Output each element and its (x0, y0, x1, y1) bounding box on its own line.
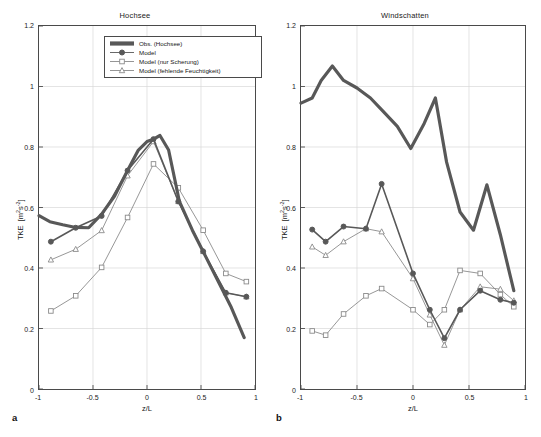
panel-b-title: Windschatten (270, 11, 540, 20)
data-point-marker-triangle-open (73, 246, 78, 251)
data-point-marker-square-open (323, 333, 328, 338)
data-point-marker-circle-filled (363, 226, 368, 231)
x-tick-label: -1 (297, 394, 303, 401)
data-point-marker-square-open (428, 322, 433, 327)
y-tick-label: 1 (276, 82, 296, 89)
data-point-marker-square-open (73, 294, 78, 299)
legend-label: Model (139, 49, 156, 56)
legend-item: Model (fehlende Feuchtigkeit) (108, 66, 258, 75)
data-point-marker-triangle-open (323, 252, 328, 257)
data-point-marker-circle-filled (427, 307, 432, 312)
legend-symbol-none (108, 39, 136, 48)
x-tick-label: 0.5 (465, 394, 475, 401)
data-point-marker-square-open (442, 307, 447, 312)
y-tick-label: 1 (14, 82, 34, 89)
panel-a-y-axis-title: TKE [m2s-2] (14, 199, 25, 240)
y-tick-label: 0.2 (14, 326, 34, 333)
panel-b-y-axis-label-text: TKE (280, 225, 289, 240)
data-point-marker-circle-filled (498, 297, 503, 302)
y-tick-label: 0.8 (14, 143, 34, 150)
x-tick-label: -0.5 (350, 394, 362, 401)
legend-label: Model (fehlende Feuchtigkeit) (139, 67, 221, 74)
data-point-marker-square-open (99, 265, 104, 270)
data-point-marker-circle-filled (411, 271, 416, 276)
y-tick-label: 0.4 (14, 265, 34, 272)
legend-item: Model (108, 48, 258, 57)
y-tick-label: 1.2 (276, 22, 296, 29)
legend-symbol-circle-filled (108, 48, 136, 57)
data-point-marker-square-open (498, 292, 503, 297)
data-point-marker-square-open (125, 215, 130, 220)
data-point-marker-square-open (120, 59, 125, 64)
series-line (39, 136, 244, 338)
y-tick-label: 0.2 (276, 326, 296, 333)
data-point-marker-circle-filled (442, 336, 447, 341)
y-tick-label: 0.8 (276, 143, 296, 150)
legend: Obs. (Hochsee)ModelModel (nur Scherung)M… (104, 36, 262, 78)
panel-b-plot-svg (301, 26, 525, 389)
data-point-marker-square-open (201, 228, 206, 233)
data-point-marker-circle-filled (244, 294, 249, 299)
series-line (49, 162, 249, 314)
panel-b-y-axis-title: TKE [m2s-2] (278, 199, 289, 240)
legend-label: Model (nur Scherung) (139, 58, 199, 65)
data-point-marker-circle-filled (310, 227, 315, 232)
legend-item: Model (nur Scherung) (108, 57, 258, 66)
x-tick-label: 0.5 (197, 394, 207, 401)
legend-symbol-triangle-open (108, 66, 136, 75)
panel-hochsee: Hochsee 00.20.40.60.811.2 -1-0.500.51 z/… (0, 0, 270, 437)
x-tick-label: 1 (524, 394, 528, 401)
data-point-marker-triangle-open (310, 244, 315, 249)
data-point-marker-square-open (411, 307, 416, 312)
x-tick-label: 1 (254, 394, 258, 401)
data-point-marker-circle-filled (458, 307, 463, 312)
panel-a-title: Hochsee (0, 11, 270, 20)
data-point-marker-triangle-open (442, 342, 447, 347)
y-tick-label: 1.2 (14, 22, 34, 29)
x-tick-label: 0 (411, 394, 415, 401)
data-point-marker-square-open (341, 312, 346, 317)
data-point-marker-triangle-open (99, 228, 104, 233)
x-tick-label: -0.5 (86, 394, 98, 401)
data-point-marker-square-open (49, 309, 54, 314)
figure-root: Hochsee 00.20.40.60.811.2 -1-0.500.51 z/… (0, 0, 541, 437)
panel-a-x-axis-title: z/L (38, 404, 256, 413)
data-point-marker-square-open (224, 271, 229, 276)
panel-a-plot-area (38, 25, 256, 390)
legend-item: Obs. (Hochsee) (108, 39, 258, 48)
data-point-marker-circle-filled (48, 239, 53, 244)
data-point-marker-circle-filled (323, 239, 328, 244)
y-tick-label: 0.4 (276, 265, 296, 272)
panel-b-letter: b (276, 412, 282, 423)
legend-symbol-square-open (108, 57, 136, 66)
data-point-marker-circle-filled (341, 224, 346, 229)
panel-a-plot-svg (39, 26, 255, 389)
x-tick-label: 0 (145, 394, 149, 401)
panel-a-y-axis-units: [m2s-2] (16, 199, 25, 223)
data-point-marker-circle-filled (478, 288, 483, 293)
data-point-marker-triangle-open (341, 239, 346, 244)
data-point-marker-square-open (364, 294, 369, 299)
series-line (48, 137, 248, 300)
panel-b-y-axis-units: [m2s-2] (280, 199, 289, 223)
data-point-marker-square-open (458, 268, 463, 273)
grid-lines (39, 26, 255, 389)
x-tick-label: -1 (35, 394, 41, 401)
data-point-marker-circle-filled (511, 300, 516, 305)
y-tick-label: 0 (14, 387, 34, 394)
data-point-marker-square-open (151, 162, 156, 167)
series-line (48, 139, 249, 299)
data-point-marker-square-open (478, 271, 483, 276)
legend-label: Obs. (Hochsee) (139, 40, 182, 47)
data-point-marker-square-open (379, 286, 384, 291)
data-point-marker-square-open (310, 329, 315, 334)
y-tick-label: 0 (276, 387, 296, 394)
panel-a-y-axis-label-text: TKE (16, 225, 25, 240)
panel-b-plot-area (300, 25, 526, 390)
panel-windschatten: Windschatten 00.20.40.60.811.2 -1-0.500.… (270, 0, 540, 437)
data-point-marker-circle-filled (120, 50, 125, 55)
data-point-marker-square-open (244, 279, 249, 284)
panel-a-letter: a (12, 412, 17, 423)
data-point-marker-circle-filled (379, 181, 384, 186)
panel-b-x-axis-title: z/L (300, 404, 526, 413)
